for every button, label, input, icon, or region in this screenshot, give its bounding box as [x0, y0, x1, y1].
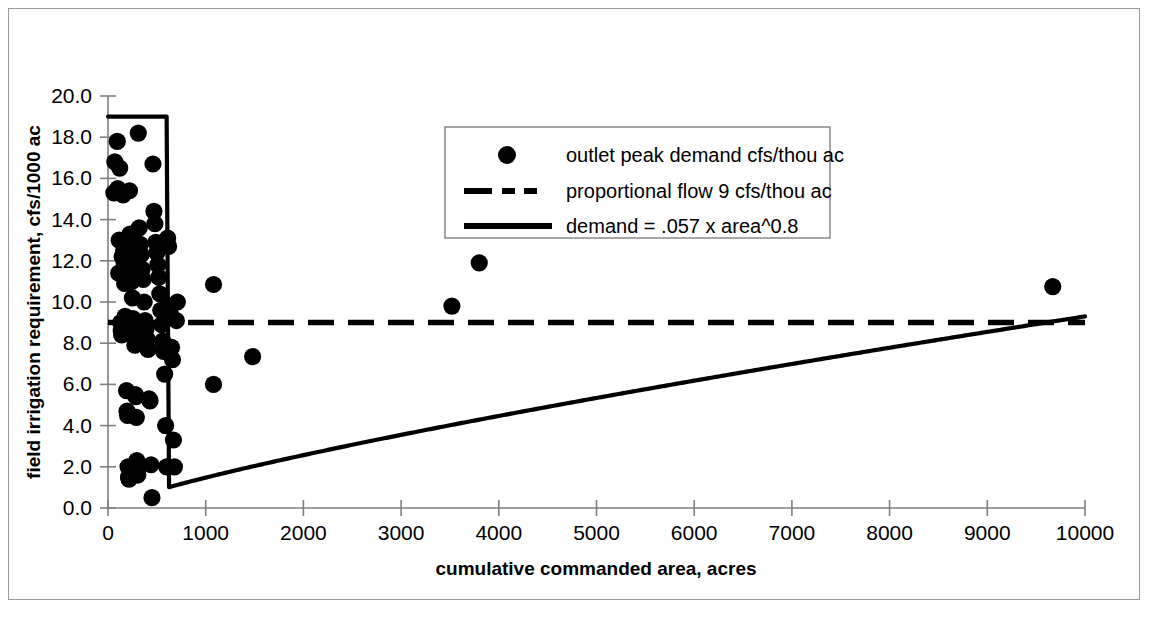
y-tick-label: 4.0	[63, 414, 92, 437]
y-tick-label: 2.0	[63, 455, 92, 478]
y-axis-tick-labels: 0.02.04.06.08.010.012.014.016.018.020.0	[51, 84, 92, 519]
scatter-point	[139, 341, 156, 358]
y-tick-label: 18.0	[51, 125, 92, 148]
scatter-point	[160, 238, 177, 255]
legend-label-demand: demand = .057 x area^0.8	[566, 215, 798, 237]
scatter-point	[168, 312, 185, 329]
y-tick-label: 0.0	[63, 496, 92, 519]
chart-legend: outlet peak demand cfs/thou ac proportio…	[445, 127, 844, 238]
y-tick-label: 20.0	[51, 84, 92, 107]
scatter-point	[165, 431, 182, 448]
scatter-point	[169, 293, 186, 310]
chart-figure: 0.02.04.06.08.010.012.014.016.018.020.0 …	[0, 0, 1166, 637]
scatter-point	[244, 348, 261, 365]
legend-label-proportional: proportional flow 9 cfs/thou ac	[566, 180, 832, 202]
y-tick-label: 10.0	[51, 290, 92, 313]
scatter-point	[128, 409, 145, 426]
x-tick-label: 4000	[475, 521, 522, 544]
scatter-point	[111, 160, 128, 177]
scatter-point	[443, 298, 460, 315]
y-axis-title: field irrigation requirement, cfs/1000 a…	[23, 125, 44, 479]
scatter-point	[142, 456, 159, 473]
x-tick-label: 9000	[964, 521, 1011, 544]
scatter-point	[130, 124, 147, 141]
x-tick-label: 7000	[769, 521, 816, 544]
scatter-point	[136, 293, 153, 310]
x-tick-label: 5000	[573, 521, 620, 544]
scatter-point	[121, 182, 138, 199]
scatter-plot: 0.02.04.06.08.010.012.014.016.018.020.0 …	[0, 0, 1166, 637]
x-tick-label: 0	[102, 521, 114, 544]
x-tick-label: 3000	[378, 521, 425, 544]
x-axis-title: cumulative commanded area, acres	[435, 558, 756, 579]
x-tick-label: 10000	[1056, 521, 1114, 544]
legend-label-scatter: outlet peak demand cfs/thou ac	[566, 144, 844, 166]
scatter-point	[143, 489, 160, 506]
scatter-point	[131, 219, 148, 236]
scatter-point	[150, 269, 167, 286]
scatter-point	[205, 276, 222, 293]
scatter-point	[146, 215, 163, 232]
x-axis-tick-labels: 0100020003000400050006000700080009000100…	[102, 521, 1114, 544]
scatter-point	[144, 155, 161, 172]
x-tick-label: 8000	[866, 521, 913, 544]
y-tick-label: 16.0	[51, 166, 92, 189]
scatter-point	[141, 392, 158, 409]
y-tick-label: 12.0	[51, 249, 92, 272]
scatter-point	[109, 133, 126, 150]
y-tick-label: 8.0	[63, 331, 92, 354]
x-tick-label: 2000	[280, 521, 327, 544]
x-tick-label: 1000	[182, 521, 229, 544]
y-tick-label: 6.0	[63, 372, 92, 395]
scatter-point	[205, 376, 222, 393]
scatter-point	[164, 351, 181, 368]
scatter-point	[471, 254, 488, 271]
y-tick-label: 14.0	[51, 208, 92, 231]
x-tick-label: 6000	[671, 521, 718, 544]
scatter-point	[166, 458, 183, 475]
legend-marker-circle-icon	[498, 146, 516, 164]
scatter-point	[135, 271, 152, 288]
scatter-point	[1044, 278, 1061, 295]
